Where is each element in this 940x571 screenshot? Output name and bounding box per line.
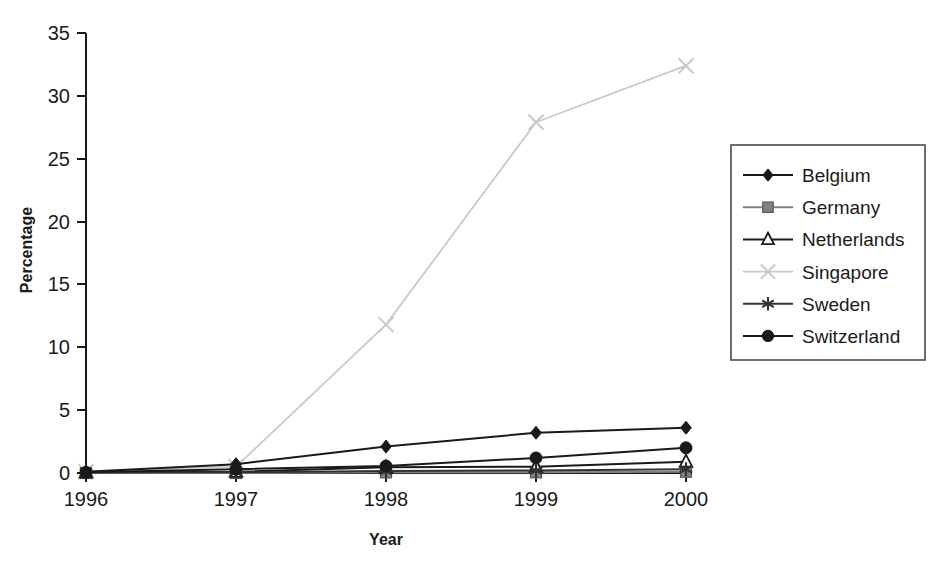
legend-label-singapore: Singapore <box>802 262 889 283</box>
square-marker <box>763 202 773 212</box>
marker-circle <box>762 330 773 341</box>
circle-marker <box>380 460 392 472</box>
legend-label-germany: Germany <box>802 197 881 218</box>
marker-circle <box>380 460 392 472</box>
y-tick-label-35: 35 <box>48 22 70 44</box>
circle-marker <box>530 452 542 464</box>
circle-marker <box>80 466 92 478</box>
marker-circle <box>230 463 242 475</box>
legend-label-netherlands: Netherlands <box>802 229 904 250</box>
x-tick-label-1998: 1998 <box>364 488 409 510</box>
x-tick-label-1997: 1997 <box>214 488 259 510</box>
y-tick-label-25: 25 <box>48 148 70 170</box>
y-tick-label-30: 30 <box>48 85 70 107</box>
circle-marker <box>230 463 242 475</box>
legend-label-belgium: Belgium <box>802 165 871 186</box>
legend-label-switzerland: Switzerland <box>802 326 900 347</box>
line-chart: 05101520253035 19961997199819992000 Perc… <box>0 0 940 571</box>
chart-container: 05101520253035 19961997199819992000 Perc… <box>0 0 940 571</box>
y-tick-label-15: 15 <box>48 273 70 295</box>
x-tick-label-1996: 1996 <box>64 488 109 510</box>
y-tick-label-5: 5 <box>59 399 70 421</box>
circle-marker <box>762 330 773 341</box>
y-tick-label-0: 0 <box>59 462 70 484</box>
y-axis-title: Percentage <box>18 207 35 293</box>
x-tick-label-2000: 2000 <box>664 488 709 510</box>
marker-circle <box>80 466 92 478</box>
y-tick-label-10: 10 <box>48 336 70 358</box>
x-tick-label-1999: 1999 <box>514 488 559 510</box>
circle-marker <box>680 442 692 454</box>
legend-label-sweden: Sweden <box>802 294 871 315</box>
x-axis-title: Year <box>369 531 403 548</box>
marker-circle <box>680 442 692 454</box>
y-tick-label-20: 20 <box>48 211 70 233</box>
marker-circle <box>530 452 542 464</box>
marker-square <box>763 202 773 212</box>
legend: BelgiumGermanyNetherlandsSingaporeSweden… <box>731 145 925 360</box>
